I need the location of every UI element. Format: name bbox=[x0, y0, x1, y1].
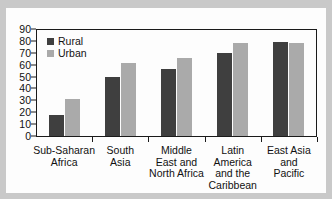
bar-rural-2 bbox=[161, 69, 176, 136]
y-axis-tick-label: 30 bbox=[9, 95, 31, 106]
chart-screenshot: 0102030405060708090 Rural Urban Sub-Saha… bbox=[0, 0, 332, 199]
x-axis-category-label: Middle East and North Africa bbox=[144, 145, 208, 180]
legend-swatch-urban bbox=[47, 50, 54, 57]
legend-item-rural: Rural bbox=[47, 35, 87, 47]
y-axis-tick-label: 20 bbox=[9, 107, 31, 118]
x-axis-tick-mark bbox=[205, 137, 206, 142]
x-axis-category-label: Latin America and the Caribbean bbox=[201, 145, 265, 191]
chart-legend: Rural Urban bbox=[47, 35, 87, 59]
x-axis-tick-mark bbox=[317, 137, 318, 142]
bar-urban-2 bbox=[177, 58, 192, 136]
y-axis-tick-label: 60 bbox=[9, 59, 31, 70]
bar-rural-0 bbox=[49, 115, 64, 136]
x-axis-category-label: East Asia and Pacific bbox=[257, 145, 321, 180]
y-axis-tick-label: 40 bbox=[9, 83, 31, 94]
legend-label-rural: Rural bbox=[58, 35, 83, 47]
chart-card: 0102030405060708090 Rural Urban Sub-Saha… bbox=[6, 8, 326, 193]
x-axis-tick-mark bbox=[261, 137, 262, 142]
bar-urban-0 bbox=[65, 99, 80, 136]
y-axis: 0102030405060708090 bbox=[6, 8, 31, 199]
y-axis-tick-label: 50 bbox=[9, 71, 31, 82]
x-axis-tick-mark bbox=[92, 137, 93, 142]
y-axis-tick-label: 0 bbox=[9, 131, 31, 142]
bar-rural-3 bbox=[217, 53, 232, 136]
x-axis-tick-mark bbox=[148, 137, 149, 142]
legend-label-urban: Urban bbox=[58, 47, 87, 59]
legend-swatch-rural bbox=[47, 38, 54, 45]
bar-urban-4 bbox=[289, 43, 304, 136]
bar-rural-4 bbox=[273, 42, 288, 136]
y-axis-tick-label: 90 bbox=[9, 24, 31, 35]
bar-urban-1 bbox=[121, 63, 136, 136]
x-axis-category-label: South Asia bbox=[88, 145, 152, 168]
bar-rural-1 bbox=[105, 77, 120, 136]
legend-item-urban: Urban bbox=[47, 47, 87, 59]
x-axis-category-label: Sub-Saharan Africa bbox=[32, 145, 96, 168]
y-axis-tick-label: 80 bbox=[9, 36, 31, 47]
bar-urban-3 bbox=[233, 43, 248, 136]
y-axis-tick-label: 70 bbox=[9, 48, 31, 59]
y-axis-tick-label: 10 bbox=[9, 119, 31, 130]
